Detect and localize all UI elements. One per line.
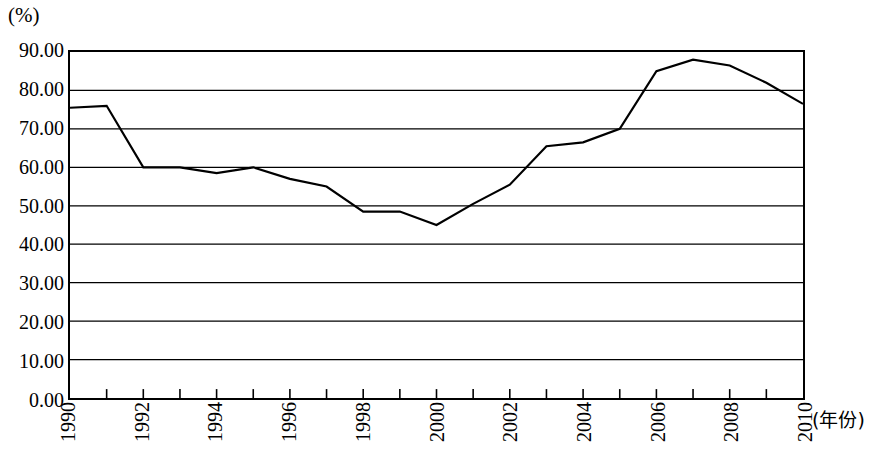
y-axis-tick-label: 30.00 xyxy=(19,273,64,293)
x-axis-tick-label: 2002 xyxy=(500,402,520,442)
x-axis-tick-label: 2000 xyxy=(427,402,447,442)
plot-svg xyxy=(70,52,803,398)
y-axis-tick-label: 90.00 xyxy=(19,40,64,60)
x-axis-unit-label: (年份) xyxy=(812,408,865,432)
plot-area xyxy=(68,50,805,400)
y-axis-tick-labels: 0.0010.0020.0030.0040.0050.0060.0070.008… xyxy=(0,0,64,455)
y-axis-tick-label: 50.00 xyxy=(19,196,64,216)
y-axis-tick-label: 80.00 xyxy=(19,79,64,99)
x-axis-ticks xyxy=(107,389,767,398)
y-axis-tick-label: 40.00 xyxy=(19,234,64,254)
x-axis-tick-label: 2004 xyxy=(574,402,594,442)
y-axis-tick-label: 60.00 xyxy=(19,157,64,177)
x-axis-tick-label: 2008 xyxy=(721,402,741,442)
x-axis-tick-label: 1998 xyxy=(353,402,373,442)
x-axis-tick-label: 1996 xyxy=(279,402,299,442)
y-axis-tick-label: 10.00 xyxy=(19,351,64,371)
chart-figure: (%) 0.0010.0020.0030.0040.0050.0060.0070… xyxy=(0,0,878,455)
x-axis-tick-label: 2006 xyxy=(648,402,668,442)
data-series-line xyxy=(70,60,803,225)
x-axis-tick-label: 1994 xyxy=(205,402,225,442)
x-axis-tick-label: 1990 xyxy=(58,402,78,442)
y-axis-tick-label: 20.00 xyxy=(19,312,64,332)
y-axis-tick-label: 70.00 xyxy=(19,118,64,138)
x-axis-tick-label: 1992 xyxy=(132,402,152,442)
x-axis-tick-labels: 1990199219941996199820002002200420062008… xyxy=(68,402,805,455)
